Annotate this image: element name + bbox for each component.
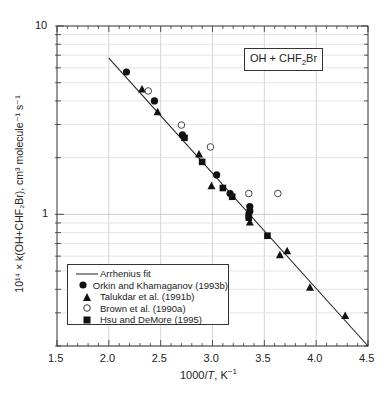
data-point-triangle [195, 150, 203, 158]
legend-item-brown: Brown et al. (1990a) [74, 303, 228, 315]
data-point-circle [213, 171, 220, 178]
data-point-circle [151, 97, 158, 104]
line-icon [74, 272, 100, 276]
legend-label: Orkin and Khamaganov (1993b) [93, 280, 228, 292]
legend-label: Hsu and DeMore (1995) [100, 314, 202, 326]
data-point-square [220, 185, 227, 192]
x-tick-label: 2.5 [152, 352, 167, 364]
y-axis-title: 10¹⁴ × k(OH+CHF₂Br), cm³ molecule⁻¹ s⁻¹ [13, 79, 25, 309]
reaction-label-text: OH + CHF [250, 52, 302, 64]
legend-label: Talukdar et al. (1991b) [100, 291, 195, 303]
data-point-open-circle [275, 190, 282, 197]
y-tick-label: 10 [35, 19, 47, 31]
data-point-open-circle [145, 88, 152, 95]
x-tick-label: 1.5 [48, 352, 63, 364]
reaction-label: OH + CHF2Br [244, 48, 323, 71]
data-point-square [245, 214, 252, 221]
filled-triangle-icon [74, 292, 100, 302]
filled-circle-icon [74, 280, 93, 290]
x-tick-label: 3.5 [255, 352, 270, 364]
x-tick-label: 4.0 [307, 352, 322, 364]
x-tick-label: 3.0 [204, 352, 219, 364]
legend-item-talukdar: Talukdar et al. (1991b) [74, 291, 228, 303]
x-tick-label: 4.5 [359, 352, 374, 364]
x-title-sup: −1 [228, 367, 237, 376]
legend: Arrhenius fit Orkin and Khamaganov (1993… [67, 264, 229, 325]
legend-item-orkin: Orkin and Khamaganov (1993b) [74, 280, 228, 292]
legend-label: Brown et al. (1990a) [100, 303, 186, 315]
x-title-suffix: , K [214, 369, 227, 381]
data-point-square [229, 193, 236, 200]
data-point-open-circle [178, 122, 185, 129]
chart-canvas [0, 0, 391, 401]
data-point-open-circle [207, 144, 214, 151]
legend-item-hsu: Hsu and DeMore (1995) [74, 314, 228, 326]
legend-item-fit: Arrhenius fit [74, 268, 228, 280]
data-point-square [264, 232, 271, 239]
filled-square-icon [74, 315, 100, 325]
x-title-prefix: 1000/ [180, 369, 208, 381]
x-tick-label: 2.0 [100, 352, 115, 364]
y-tick-label: 1 [42, 207, 48, 219]
data-point-triangle [207, 182, 215, 190]
data-point-square [199, 159, 206, 166]
reaction-label-suffix: Br [306, 52, 317, 64]
x-axis-title: 1000/T, K−1 [180, 367, 237, 381]
data-point-triangle [283, 247, 291, 255]
data-point-square [181, 134, 188, 141]
legend-label: Arrhenius fit [100, 268, 151, 280]
data-point-open-circle [245, 190, 252, 197]
data-point-circle [123, 68, 130, 75]
open-circle-icon [74, 303, 100, 313]
